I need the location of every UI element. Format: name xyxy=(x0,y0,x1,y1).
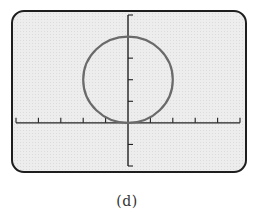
graph-plot xyxy=(0,0,254,214)
figure-caption: (d) xyxy=(0,193,254,209)
